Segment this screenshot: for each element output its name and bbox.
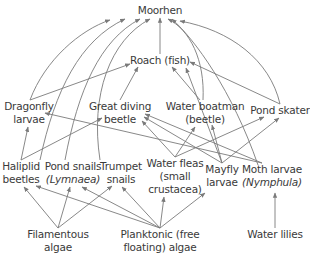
- node-great-diving-beetle: Great diving beetle: [89, 100, 151, 126]
- arrow-haliplid-to-dragonfly: [21, 127, 28, 160]
- arrow-water-fleas-to-great-diving-beetle: [142, 121, 175, 157]
- arrow-filamentous-algae-to-trumpet-snails: [58, 186, 112, 228]
- arrow-mayfly-to-water-boatman: [212, 125, 222, 163]
- arrow-filamentous-algae-to-pond-snails: [58, 187, 70, 228]
- node-water-boatman: Water boatman (beetle): [166, 100, 245, 126]
- node-roach: Roach (fish): [130, 54, 190, 67]
- arrow-filamentous-algae-to-haliplid: [24, 187, 58, 228]
- node-moorhen: Moorhen: [138, 4, 182, 17]
- food-web-diagram: Moorhen Roach (fish) Dragonfly larvae Gr…: [0, 0, 310, 256]
- node-water-fleas: Water fleas (small crustacea): [146, 157, 203, 196]
- arrow-pond-snails-to-moorhen: [65, 19, 140, 160]
- arrow-planktonic-algae-to-water-fleas: [160, 197, 164, 228]
- node-dragonfly-larvae: Dragonfly larvae: [4, 100, 54, 126]
- arrow-dragonfly-to-moorhen: [30, 20, 110, 100]
- arrow-planktonic-algae-to-mayfly: [160, 193, 205, 228]
- node-mayfly-larvae: Mayfly larvae: [205, 163, 238, 189]
- node-planktonic-algae: Planktonic (free floating) algae: [120, 228, 199, 254]
- arrow-dragonfly-to-roach: [30, 64, 130, 100]
- node-moth-larvae: Moth larvae (Nymphula): [242, 163, 302, 189]
- arrow-haliplid-to-moorhen: [40, 19, 125, 160]
- arrow-trumpet-snails-to-moorhen: [97, 19, 150, 160]
- node-pond-snails: Pond snails (Lymnaea): [45, 160, 102, 186]
- node-haliplid-beetles: Haliplid beetles: [2, 160, 40, 186]
- arrow-great-diving-beetle-to-roach: [120, 67, 138, 100]
- arrow-planktonic-algae-to-haliplid: [36, 186, 160, 228]
- node-pond-skater: Pond skater: [250, 104, 310, 117]
- node-filamentous-algae: Filamentous algae: [27, 228, 88, 254]
- arrows-layer: [0, 0, 310, 256]
- node-trumpet-snails: Trumpet snails: [100, 160, 142, 186]
- node-water-lilies: Water lilies: [247, 228, 303, 241]
